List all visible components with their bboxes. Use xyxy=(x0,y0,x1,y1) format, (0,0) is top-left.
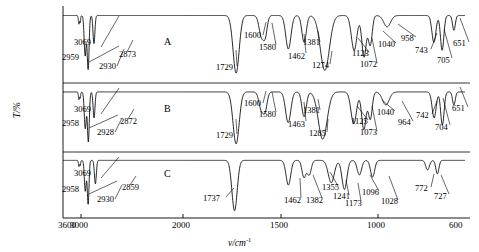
peak-label: 1028 xyxy=(381,197,398,206)
peak-label: 1382 xyxy=(306,196,323,205)
x-axis-ticks xyxy=(63,214,465,218)
x-tick-label: 600 xyxy=(449,220,463,230)
peak-label: 743 xyxy=(415,46,428,55)
peak-label: 3069 xyxy=(74,105,91,114)
peak-label: 1600 xyxy=(244,31,261,40)
panel-label-b: B xyxy=(164,103,171,114)
peak-label: 958 xyxy=(401,34,414,43)
peak-label: 651 xyxy=(453,39,466,48)
ftir-spectra-figure: T/% v/cm-1 36003000200015001000600ABC306… xyxy=(0,0,479,252)
peak-label: 1381 xyxy=(303,106,320,115)
peak-label: 1463 xyxy=(288,120,305,129)
peak-label: 1096 xyxy=(362,188,379,197)
peak-label: 2872 xyxy=(120,117,137,126)
peak-label: 1381 xyxy=(303,38,320,47)
x-axis-exponent: -1 xyxy=(246,236,251,243)
peak-label: 1072 xyxy=(360,60,377,69)
peak-label: 1125 xyxy=(351,117,368,126)
peak-label: 3069 xyxy=(74,38,91,47)
x-tick-label: 2000 xyxy=(172,220,190,230)
peak-label: 2958 xyxy=(62,119,79,128)
peak-label: 1123 xyxy=(352,49,369,58)
peak-label: 1580 xyxy=(259,43,276,52)
peak-label: 2959 xyxy=(62,53,79,62)
peak-label: 1580 xyxy=(259,110,276,119)
panel-label-c: C xyxy=(164,168,171,179)
peak-label: 651 xyxy=(452,104,465,113)
peak-label: 704 xyxy=(435,123,448,132)
x-axis-title: v/cm-1 xyxy=(228,236,251,248)
y-axis-title: T/% xyxy=(12,102,22,118)
peak-label: 772 xyxy=(415,184,428,193)
peak-label: 1274 xyxy=(312,61,329,70)
x-tick-label: 3000 xyxy=(70,220,88,230)
x-tick-label: 1500 xyxy=(270,220,288,230)
peak-label: 2928 xyxy=(97,128,114,137)
peak-label: 964 xyxy=(398,118,411,127)
peak-label: 1729 xyxy=(216,63,233,72)
peak-label: 3069 xyxy=(74,169,91,178)
annotation-leader-lines xyxy=(89,16,469,201)
peak-label: 1737 xyxy=(203,194,220,203)
peak-label: 1040 xyxy=(377,108,394,117)
peak-label: 2930 xyxy=(99,62,116,71)
peak-label: 1173 xyxy=(345,199,362,208)
peak-label: 742 xyxy=(416,111,429,120)
peak-label: 1600 xyxy=(244,99,261,108)
peak-label: 1729 xyxy=(216,131,233,140)
panel-label-a: A xyxy=(164,36,171,47)
x-tick-label: 1000 xyxy=(367,220,385,230)
peak-label: 2859 xyxy=(122,183,139,192)
peak-label: 705 xyxy=(437,56,450,65)
peak-label: 2873 xyxy=(119,50,136,59)
peak-label: 727 xyxy=(434,192,447,201)
peak-label: 2930 xyxy=(97,195,114,204)
peak-label: 1462 xyxy=(288,52,305,61)
peak-label: 1462 xyxy=(284,196,301,205)
peak-label: 1040 xyxy=(378,40,395,49)
peak-label: 1285 xyxy=(309,129,326,138)
peak-label: 1073 xyxy=(360,128,377,137)
peak-label: 2958 xyxy=(62,185,79,194)
